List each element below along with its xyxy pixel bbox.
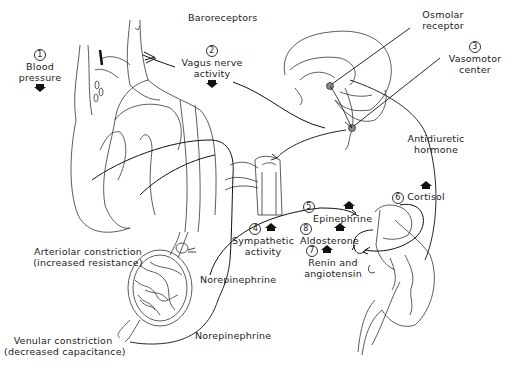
- sympathetic-activity-label: 4 Sympathetic activity: [228, 222, 298, 257]
- step-8-badge: 8: [300, 223, 312, 235]
- epinephrine-label: 5 Epinephrine: [303, 200, 372, 224]
- increase-arrow-icon: [321, 245, 333, 253]
- increase-arrow-icon: [420, 181, 432, 189]
- norepinephrine-label-arteriolar: Norepinephrine: [200, 274, 276, 285]
- increase-arrow-icon: [265, 223, 277, 231]
- step-4-badge: 4: [249, 223, 261, 235]
- step-7-badge: 7: [306, 245, 318, 257]
- arteriolar-constriction-label: Arteriolar constriction (increased resis…: [28, 246, 148, 268]
- cortisol-label: 6 Cortisol: [392, 180, 445, 204]
- step-6-badge: 6: [392, 192, 404, 204]
- vagus-nerve-activity-label: 2 Vagus nerve activity: [172, 44, 252, 90]
- step-2-badge: 2: [206, 45, 218, 57]
- aldosterone-label: 8 Aldosterone: [300, 222, 359, 246]
- baroreceptor-reflex-diagram: Baroreceptors Osmolar receptor 1 Blood p…: [0, 0, 511, 367]
- baroreceptors-label: Baroreceptors: [188, 12, 257, 23]
- step-1-badge: 1: [34, 49, 46, 61]
- norepinephrine-label-venular: Norepinephrine: [195, 330, 271, 341]
- increase-arrow-icon: [334, 223, 346, 231]
- blood-pressure-label: 1 Blood pressure: [14, 48, 66, 94]
- osmolar-receptor-label: Osmolar receptor: [413, 9, 473, 31]
- decrease-arrow-icon: [206, 80, 218, 88]
- brain-illustration: [284, 31, 391, 150]
- vasomotor-center-label: 3 Vasomotor center: [445, 40, 505, 75]
- venular-constriction-label: Venular constriction (decreased capacita…: [4, 335, 122, 357]
- step-3-badge: 3: [469, 41, 481, 53]
- increase-arrow-icon: [343, 201, 355, 209]
- antidiuretic-hormone-label: Antidiuretic hormone: [400, 133, 472, 155]
- renin-angiotensin-label: 7 Renin and angiotensin: [302, 244, 364, 279]
- kidney-illustration: [358, 205, 434, 355]
- step-5-badge: 5: [303, 201, 315, 213]
- decrease-arrow-icon: [34, 84, 46, 92]
